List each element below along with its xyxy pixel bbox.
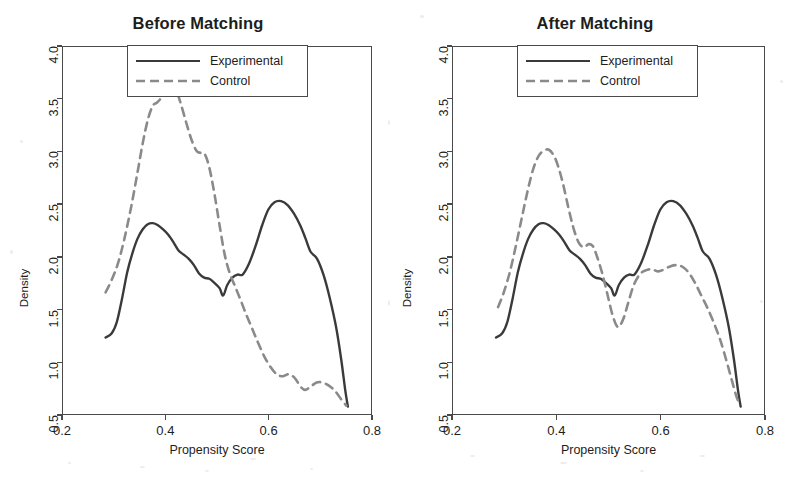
- scan-artifact: [10, 250, 13, 254]
- y-tick-label: 2.5: [437, 204, 451, 221]
- x-tick-label: 0.6: [652, 423, 670, 438]
- x-tick-mark: [268, 415, 269, 420]
- legend-label-experimental: Experimental: [600, 54, 673, 68]
- x-axis-before: Propensity Score 0.20.40.60.8: [62, 415, 372, 455]
- plot-area-after: [452, 46, 765, 415]
- scan-artifact: [760, 300, 763, 303]
- legend-entry-control: Control: [134, 71, 299, 91]
- scan-artifact: [205, 470, 209, 472]
- scan-artifact: [560, 462, 567, 464]
- x-tick-mark: [165, 415, 166, 420]
- legend-entry-experimental: Experimental: [524, 51, 689, 71]
- legend-line-solid-icon: [134, 55, 202, 67]
- legend-entry-experimental: Experimental: [134, 51, 299, 71]
- y-tick-label: 3.0: [47, 151, 61, 168]
- x-tick-label: 0.4: [156, 423, 174, 438]
- scan-artifact: [388, 300, 390, 306]
- curve-control: [498, 149, 739, 403]
- x-tick-mark: [660, 415, 661, 420]
- scan-artifact: [640, 470, 644, 472]
- legend-label-control: Control: [600, 74, 640, 88]
- x-tick-label: 0.4: [547, 423, 565, 438]
- y-tick-label: 1.0: [47, 362, 61, 379]
- legend-label-control: Control: [210, 74, 250, 88]
- scan-artifact: [470, 455, 475, 457]
- y-tick-label: 4.0: [47, 46, 61, 63]
- plot-area-before: [62, 46, 372, 415]
- curve-experimental: [496, 201, 741, 407]
- y-axis-title-after: Density: [401, 258, 413, 318]
- scan-artifact: [140, 466, 145, 468]
- x-tick-label: 0.2: [443, 423, 461, 438]
- y-axis-before: Density 0.51.01.52.02.53.03.54.0: [2, 46, 62, 415]
- panel-title-after: After Matching: [397, 14, 793, 33]
- figure-container: Before Matching Density 0.51.01.52.02.53…: [0, 0, 793, 480]
- y-tick-label: 2.0: [47, 257, 61, 274]
- y-tick-label: 1.5: [47, 310, 61, 327]
- x-tick-mark: [61, 415, 62, 420]
- curve-control: [106, 83, 347, 405]
- legend-before: Experimental Control: [127, 45, 308, 97]
- x-axis-after: Propensity Score 0.20.40.60.8: [452, 415, 765, 455]
- y-tick-label: 2.5: [47, 204, 61, 221]
- x-axis-title-after: Propensity Score: [452, 443, 765, 457]
- panel-title-before: Before Matching: [0, 14, 396, 33]
- legend-line-dashed-icon: [134, 75, 202, 87]
- scan-artifact: [250, 458, 256, 460]
- y-tick-label: 2.0: [437, 257, 451, 274]
- y-axis-after: Density 0.51.01.52.02.53.03.54.0: [392, 46, 452, 415]
- density-curves-before: [63, 47, 371, 414]
- y-tick-label: 3.5: [47, 99, 61, 116]
- legend-label-experimental: Experimental: [210, 54, 283, 68]
- x-tick-label: 0.8: [363, 423, 381, 438]
- x-tick-label: 0.2: [53, 423, 71, 438]
- x-axis-title-before: Propensity Score: [62, 443, 372, 457]
- x-tick-mark: [371, 415, 372, 420]
- y-tick-label: 3.5: [437, 99, 451, 116]
- scan-artifact: [20, 140, 23, 143]
- scan-artifact: [388, 120, 390, 125]
- y-tick-label: 1.0: [437, 362, 451, 379]
- legend-line-dashed-icon: [524, 75, 592, 87]
- scan-artifact: [310, 468, 313, 470]
- y-tick-label: 3.0: [437, 151, 451, 168]
- x-tick-mark: [764, 415, 765, 420]
- y-axis-title-before: Density: [18, 258, 30, 318]
- legend-after: Experimental Control: [517, 45, 698, 97]
- x-tick-mark: [451, 415, 452, 420]
- x-tick-label: 0.6: [260, 423, 278, 438]
- scan-artifact: [420, 15, 424, 18]
- scan-artifact: [700, 455, 705, 457]
- y-tick-label: 4.0: [437, 46, 451, 63]
- curve-experimental: [106, 201, 348, 407]
- legend-entry-control: Control: [524, 71, 689, 91]
- legend-line-solid-icon: [524, 55, 592, 67]
- density-curves-after: [453, 47, 764, 414]
- y-tick-label: 1.5: [437, 310, 451, 327]
- x-tick-mark: [556, 415, 557, 420]
- chart-panel-before-matching: Before Matching Density 0.51.01.52.02.53…: [0, 0, 396, 480]
- scan-artifact: [68, 462, 71, 464]
- x-tick-label: 0.8: [756, 423, 774, 438]
- chart-panel-after-matching: After Matching Density 0.51.01.52.02.53.…: [397, 0, 793, 480]
- scan-artifact: [780, 80, 783, 83]
